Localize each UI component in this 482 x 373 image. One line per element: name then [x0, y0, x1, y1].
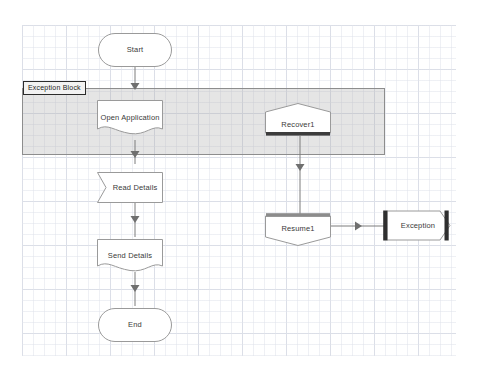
flowchart-canvas[interactable]: Exception Block — [0, 0, 482, 373]
node-open-application[interactable]: Open Application — [97, 100, 163, 136]
node-resume1[interactable]: Resume1 — [265, 212, 331, 246]
node-end[interactable]: End — [98, 308, 172, 342]
exception-block-label: Exception Block — [23, 81, 86, 95]
node-exception[interactable]: Exception — [380, 210, 452, 241]
grid-background — [22, 25, 456, 356]
node-start[interactable]: Start — [98, 33, 172, 67]
node-recover1[interactable]: Recover1 — [265, 103, 331, 137]
node-read-details[interactable]: Read Details — [97, 172, 163, 203]
node-send-details[interactable]: Send Details — [97, 239, 163, 273]
